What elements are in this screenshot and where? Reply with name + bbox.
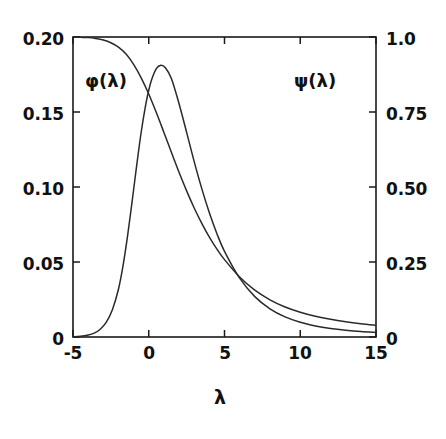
y-left-tick-label-0: 0.20 — [6, 31, 64, 48]
curve-phi — [73, 65, 376, 337]
figure-container: 0.20 0.15 0.10 0.05 0 1.0 0.75 0.50 0.25… — [0, 0, 446, 439]
x-tick-label-2: 5 — [205, 345, 245, 362]
psi-curve-label: ψ(λ) — [294, 72, 336, 90]
x-tick-label-0: -5 — [53, 345, 93, 362]
chart-canvas — [0, 0, 446, 439]
x-tick-label-1: 0 — [129, 345, 169, 362]
y-left-tick-label-3: 0.05 — [6, 256, 64, 273]
y-right-tick-label-2: 0.50 — [386, 181, 427, 198]
phi-curve-label: φ(λ) — [85, 72, 127, 90]
x-axis-title: λ — [214, 388, 226, 407]
y-right-tick-label-3: 0.25 — [386, 256, 427, 273]
y-left-tick-label-1: 0.15 — [6, 106, 64, 123]
y-right-tick-label-1: 0.75 — [386, 106, 427, 123]
y-left-tick-label-2: 0.10 — [6, 181, 64, 198]
x-tick-label-3: 10 — [280, 345, 320, 362]
x-tick-label-4: 15 — [356, 345, 396, 362]
y-right-tick-label-0: 1.0 — [386, 31, 416, 48]
